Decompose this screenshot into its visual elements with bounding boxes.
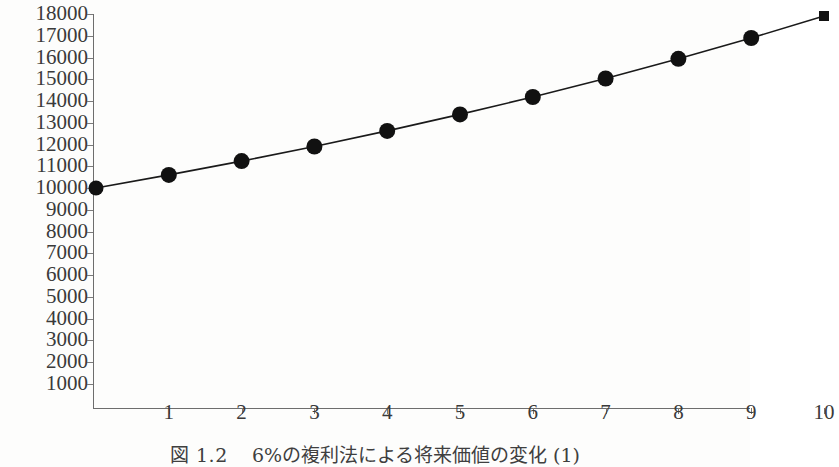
- x-axis-tick-label: 2: [222, 402, 262, 423]
- data-point-marker: [819, 11, 829, 21]
- y-axis-tick-label: 2000: [0, 351, 88, 372]
- y-axis-tick-label: 16000: [0, 47, 88, 68]
- data-point-marker: [670, 51, 686, 67]
- data-point-marker: [452, 106, 468, 122]
- y-axis-tick-label: 14000: [0, 90, 88, 111]
- data-point-marker: [598, 71, 614, 87]
- y-axis-tick-label: 15000: [0, 68, 88, 89]
- x-axis-tick-label: 1: [149, 402, 189, 423]
- data-series-line: [93, 14, 750, 409]
- data-point-marker: [379, 123, 395, 139]
- x-axis-tick-label: 4: [367, 402, 407, 423]
- data-point-marker: [743, 30, 759, 46]
- y-axis-tick-label: 11000: [0, 155, 88, 176]
- y-axis-tick-label: 3000: [0, 329, 88, 350]
- y-axis-tick-label: 8000: [0, 221, 88, 242]
- x-axis-tick-label: 9: [731, 402, 771, 423]
- y-axis-tick-label: 4000: [0, 308, 88, 329]
- data-point-marker: [161, 167, 177, 183]
- data-point-marker: [306, 139, 322, 155]
- x-axis-tick-label: 6: [513, 402, 553, 423]
- y-axis-tick-label: 5000: [0, 286, 88, 307]
- x-axis-tick-label: 3: [294, 402, 334, 423]
- y-axis-tick-label: 17000: [0, 25, 88, 46]
- y-axis-tick-label: 9000: [0, 199, 88, 220]
- y-axis-tick-label: 13000: [0, 112, 88, 133]
- y-axis-tick-label: 10000: [0, 177, 88, 198]
- y-axis-labels: 1800017000160001500014000130001200011000…: [0, 0, 88, 420]
- y-axis-tick-label: 18000: [0, 3, 88, 24]
- data-point-marker: [234, 153, 250, 169]
- data-point-marker: [89, 181, 104, 196]
- figure-caption-label: 図 1.2: [170, 444, 228, 466]
- data-point-marker: [525, 89, 541, 105]
- y-axis-tick-label: 7000: [0, 242, 88, 263]
- x-axis-tick-label: 10: [804, 402, 839, 423]
- y-axis-tick-label: 6000: [0, 264, 88, 285]
- plot-area: [93, 14, 750, 409]
- x-axis-tick-label: 7: [586, 402, 626, 423]
- figure-caption-text: 6%の複利法による将来価値の変化 (1): [252, 444, 580, 466]
- x-axis-tick-label: 5: [440, 402, 480, 423]
- y-axis-tick-label: 12000: [0, 134, 88, 155]
- figure-caption: 図 1.2 6%の複利法による将来価値の変化 (1): [0, 443, 750, 467]
- y-axis-tick-label: 1000: [0, 373, 88, 394]
- x-axis-tick-label: 8: [658, 402, 698, 423]
